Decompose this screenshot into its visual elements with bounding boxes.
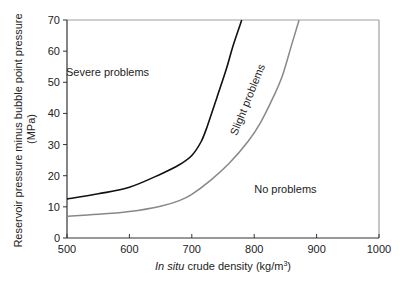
x-tick-label: 600 — [120, 243, 138, 255]
plot-frame — [67, 20, 379, 238]
x-axis-label: In situ crude density (kg/m3) — [155, 260, 291, 272]
y-axis-label: Reservoir pressure minus bubble point pr… — [12, 10, 37, 247]
y-axis-ticks: 010203040506070 — [48, 14, 67, 244]
x-tick-label: 800 — [245, 243, 263, 255]
chart: 010203040506070 5006007008009001000 Seve… — [0, 0, 407, 287]
region-label: Slight problems — [228, 62, 268, 137]
region-label: Severe problems — [66, 66, 150, 78]
x-tick-label: 1000 — [367, 243, 391, 255]
x-axis-label-text: crude density (kg/m — [184, 260, 283, 272]
y-tick-label: 20 — [48, 170, 60, 182]
x-axis-label-close: ) — [287, 260, 291, 272]
y-tick-label: 70 — [48, 14, 60, 26]
y-tick-label: 40 — [48, 107, 60, 119]
y-axis-label-line1: Reservoir pressure minus bubble point pr… — [12, 13, 24, 247]
x-tick-label: 500 — [58, 243, 76, 255]
y-axis-label-line2: (MPa) — [25, 114, 37, 144]
y-tick-label: 60 — [48, 45, 60, 57]
x-tick-label: 900 — [307, 243, 325, 255]
x-tick-label: 700 — [183, 243, 201, 255]
region-label: No problems — [254, 183, 317, 195]
y-tick-label: 50 — [48, 76, 60, 88]
y-tick-label: 10 — [48, 201, 60, 213]
x-axis-ticks: 5006007008009001000 — [58, 234, 391, 255]
series-line-severe-boundary — [67, 20, 242, 199]
x-axis-label-italic: In situ — [155, 260, 184, 272]
y-tick-label: 30 — [48, 139, 60, 151]
